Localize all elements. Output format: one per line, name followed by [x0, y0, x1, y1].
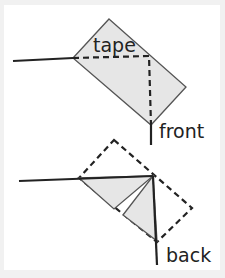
back-label: back [166, 244, 211, 266]
tape-fold-diagram: tape front back [0, 0, 225, 278]
bottom-figure-back: back [19, 140, 211, 266]
edge-line-left [13, 58, 73, 61]
tape-label: tape [93, 34, 136, 56]
front-label: front [159, 120, 204, 142]
top-figure-front: tape front [13, 19, 204, 145]
